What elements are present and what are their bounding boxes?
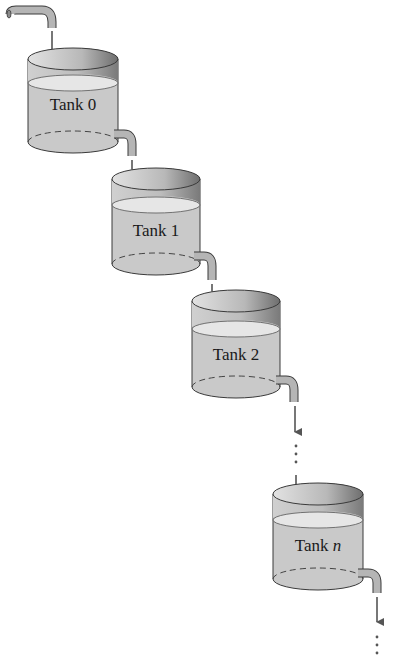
tank-2: Tank 2 [192, 290, 280, 398]
tank-label: Tank n [295, 536, 342, 555]
tank-label: Tank 2 [213, 345, 260, 364]
continuation-dots [376, 636, 379, 655]
tank-n: Tank n [273, 483, 363, 590]
inlet-pipe [7, 10, 52, 56]
tank-1: Tank 1 [112, 168, 200, 275]
tank-0: Tank 0 [28, 48, 118, 153]
tank-label: Tank 0 [50, 95, 97, 114]
tank-cascade-diagram: Tank 0 Tank 1 Tank 2 [0, 0, 395, 663]
tank-label: Tank 1 [133, 221, 180, 240]
